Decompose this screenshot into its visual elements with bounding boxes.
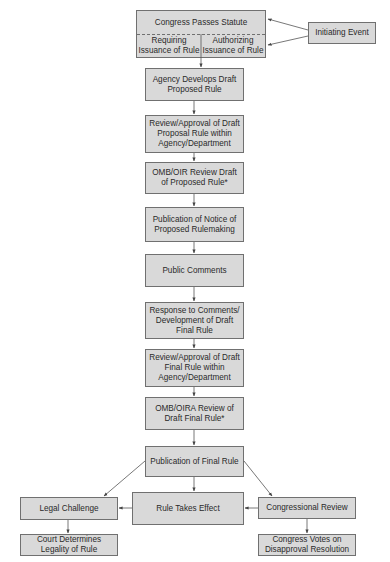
step-publication-of-final-rule: Publication of Final Rule: [145, 446, 244, 477]
step-agency-develops-draft: Agency Develops Draft Proposed Rule: [145, 68, 244, 101]
step-omb-oir-review-proposed: OMB/OIR Review Draft of Proposed Rule*: [145, 162, 244, 194]
step-rule-takes-effect: Rule Takes Effect: [132, 492, 244, 525]
arrow-publication-to-legal: [104, 461, 145, 496]
arrow-initiating-to-statute: [268, 19, 308, 30]
rulemaking-flowchart: Congress Passes Statute Requiring Issuan…: [0, 0, 390, 562]
congressional-review-box: Congressional Review: [258, 497, 356, 519]
arrow-initiating-to-authorizing: [268, 36, 308, 45]
step-omb-oira-review-final: OMB/OIRA Review of Draft Final Rule*: [145, 397, 244, 430]
step-review-approval-final: Review/Approval of Draft Final Rule with…: [145, 349, 244, 387]
initiating-event-box: Initiating Event: [308, 22, 376, 44]
step-response-to-comments: Response to Comments/ Development of Dra…: [145, 302, 244, 339]
step-review-approval-proposal: Review/Approval of Draft Proposal Rule w…: [145, 115, 244, 153]
statute-label: Congress Passes Statute: [137, 11, 265, 35]
congress-passes-statute-box: Congress Passes Statute Requiring Issuan…: [136, 10, 266, 58]
congress-votes-box: Congress Votes on Disapproval Resolution: [258, 534, 356, 556]
requiring-issuance-label: Requiring Issuance of Rule: [137, 35, 201, 57]
legal-challenge-box: Legal Challenge: [20, 497, 118, 520]
authorizing-issuance-label: Authorizing Issuance of Rule: [201, 35, 265, 57]
step-publication-of-notice: Publication of Notice of Proposed Rulema…: [145, 207, 244, 242]
court-determines-box: Court Determines Legality of Rule: [20, 534, 118, 556]
step-public-comments: Public Comments: [145, 254, 244, 287]
arrow-publication-to-congressional: [244, 461, 272, 496]
